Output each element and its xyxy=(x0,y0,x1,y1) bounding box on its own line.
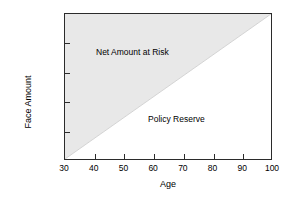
x-tick-label-30: 30 xyxy=(59,164,68,173)
annotation-net-amount-at-risk: Net Amount at Risk xyxy=(96,48,169,57)
y-tick-600 xyxy=(65,73,70,74)
x-tick-label-40: 40 xyxy=(89,164,98,173)
y-tick-200 xyxy=(65,132,70,133)
x-tick-40 xyxy=(95,154,96,159)
y-tick-800 xyxy=(65,43,70,44)
x-tick-70 xyxy=(184,154,185,159)
region-shading xyxy=(65,14,271,159)
x-axis-title: Age xyxy=(160,180,176,189)
y-axis-title: Face Amount xyxy=(24,75,33,128)
x-tick-label-100: 100 xyxy=(265,164,279,173)
x-tick-label-50: 50 xyxy=(119,164,128,173)
annotation-policy-reserve: Policy Reserve xyxy=(148,115,205,124)
x-tick-label-80: 80 xyxy=(208,164,217,173)
x-tick-label-90: 90 xyxy=(238,164,247,173)
x-tick-label-70: 70 xyxy=(178,164,187,173)
x-tick-80 xyxy=(214,154,215,159)
x-tick-label-60: 60 xyxy=(148,164,157,173)
chart-figure: Net Amount at Risk Policy Reserve $1,000… xyxy=(0,0,288,203)
x-tick-50 xyxy=(124,154,125,159)
x-tick-90 xyxy=(243,154,244,159)
x-tick-60 xyxy=(154,154,155,159)
y-tick-400 xyxy=(65,102,70,103)
plot-area: Net Amount at Risk Policy Reserve xyxy=(64,13,272,160)
